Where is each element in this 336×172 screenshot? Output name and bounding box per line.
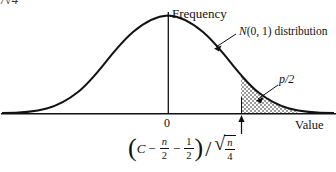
formula-rad-bar <box>225 149 234 150</box>
formula-divide-slash: / <box>203 140 213 158</box>
distribution-label-symbol: N <box>239 25 247 37</box>
formula-minus-1: − <box>145 142 158 155</box>
formula-fraction-1-over-2: 1 2 <box>184 136 193 161</box>
formula-frac1-bar <box>160 148 169 149</box>
formula-frac2-bar <box>184 148 193 149</box>
formula-frac1-denominator: 2 <box>160 150 169 161</box>
critical-value-pointer-arrowhead <box>238 115 244 122</box>
formula-rad-numerator: n <box>225 137 234 148</box>
critical-value-formula: ( C − n 2 − 1 2 ) / √ n 4 <box>128 135 236 162</box>
formula-square-root: √ n 4 <box>214 135 235 162</box>
formula-rad-denominator: 4 <box>225 151 234 162</box>
formula-open-paren: ( <box>128 138 137 158</box>
tail-area-label: p/2 <box>279 73 294 85</box>
radicand: n 4 <box>224 135 235 162</box>
formula-frac2-denominator: 2 <box>184 150 193 161</box>
normal-distribution-figure: /√4 <box>0 0 336 172</box>
distribution-label-text: (0, 1) distribution <box>247 25 328 37</box>
formula-minus-2: − <box>170 142 183 155</box>
distribution-label: N(0, 1) distribution <box>239 26 328 38</box>
formula-fraction-n-over-2: n 2 <box>160 136 169 161</box>
formula-frac2-numerator: 1 <box>184 136 193 147</box>
origin-tick-label: 0 <box>164 117 170 129</box>
y-axis-label: Frequency <box>172 7 227 20</box>
formula-frac1-numerator: n <box>160 136 169 147</box>
formula-close-paren: ) <box>195 138 204 158</box>
distribution-label-leader-line <box>216 34 236 47</box>
tail-area-label-leader-line <box>258 85 278 99</box>
x-axis-label: Value <box>295 119 323 132</box>
formula-fraction-n-over-4: n 4 <box>225 137 234 162</box>
formula-variable-c: C <box>137 142 146 155</box>
